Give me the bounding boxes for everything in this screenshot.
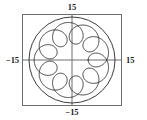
axis-label-bottom: −15 xyxy=(65,108,78,117)
axis-label-right: 15 xyxy=(126,56,134,65)
figure-container: 15 −15 −15 15 xyxy=(0,0,147,120)
axis-label-top: 15 xyxy=(68,3,76,12)
axis-label-left: −15 xyxy=(6,56,19,65)
plot-canvas xyxy=(0,0,147,120)
